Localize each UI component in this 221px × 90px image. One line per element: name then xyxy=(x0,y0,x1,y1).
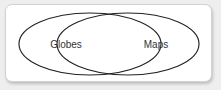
venn-diagram: Globes Maps xyxy=(6,5,213,83)
venn-set-maps-label: Maps xyxy=(144,39,168,50)
diagram-canvas: Globes Maps xyxy=(0,0,221,90)
venn-set-globes-ellipse[interactable] xyxy=(19,13,161,75)
diagram-card: Globes Maps xyxy=(5,4,212,82)
venn-set-globes-label: Globes xyxy=(50,39,82,50)
